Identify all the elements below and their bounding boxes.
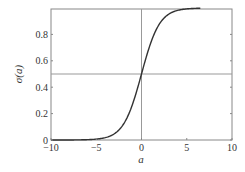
- y-tick-label: 0.8: [36, 29, 49, 40]
- x-tick-label: 5: [184, 142, 189, 153]
- y-tick-label: 0.4: [36, 82, 49, 93]
- x-axis-label: a: [138, 153, 144, 165]
- x-tick-label: 10: [227, 142, 237, 153]
- x-tick-label: −5: [91, 142, 102, 153]
- y-axis-ticks: 00.20.40.60.8: [36, 29, 233, 146]
- y-tick-label: 0.6: [36, 55, 49, 66]
- x-tick-label: 0: [139, 142, 144, 153]
- sigmoid-chart: −10−50510 00.20.40.60.8 a σ(a): [0, 0, 245, 172]
- y-axis-label: σ(a): [12, 65, 25, 84]
- y-tick-label: 0.2: [36, 108, 49, 119]
- y-tick-label: 0: [43, 135, 48, 146]
